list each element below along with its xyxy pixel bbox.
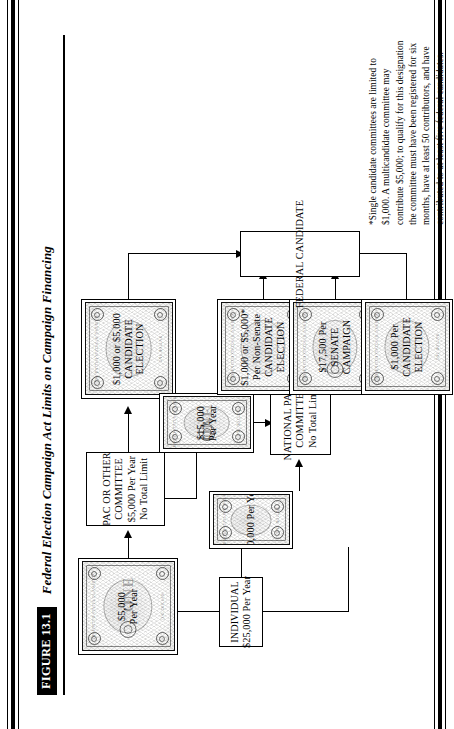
bill-microtext-bottom: ONE DOLLAR <box>237 409 241 435</box>
bill-microtext-top: THE UNITED STATES OF AMERICA <box>223 494 227 545</box>
bill-line-2: CANDIDATE <box>123 313 135 385</box>
figure-footnote: *Single candidate committees are limited… <box>367 40 447 225</box>
arrow-5000-to-pac <box>124 530 132 538</box>
bill-label: $5,000 Per Year <box>116 588 140 624</box>
bill-line-1: $1,000 or $5,000 <box>111 313 123 385</box>
bill-face: THE UNITED STATES OF AMERICA ONE DOLLAR … <box>213 494 290 545</box>
rosette-icon <box>431 372 444 385</box>
pac-line-4: No Total Limit <box>138 457 150 519</box>
page-rule-left-thick <box>11 0 15 729</box>
federal-candidate-label: FEDERAL CANDIDATE <box>294 199 306 307</box>
bill-microtext-top: THE UNITED STATES OF AMERICA <box>375 313 379 380</box>
bill-pac-candidate-election: THE UNITED STATES OF AMERICA ONE DOLLAR … <box>81 299 176 399</box>
node-pac-or-other-committee: PAC OR OTHER COMMITTEE $5,000 Per Year N… <box>86 452 165 526</box>
rosette-icon <box>154 376 167 389</box>
rosette-icon <box>156 632 169 645</box>
connector-senate-to-federal-line <box>335 277 336 299</box>
pac-line-2: COMMITTEE <box>113 458 125 519</box>
bill-line-4: ELECTION <box>275 308 287 385</box>
connector-pac-to-15000-vert <box>164 498 196 499</box>
bill-face: THE UNITED STATES OF AMERICA ONE DOLLAR … <box>82 561 175 651</box>
node-individual: INDIVIDUAL $25,000 Per Year <box>219 577 263 647</box>
rosette-icon <box>431 308 444 321</box>
figure-canvas: FIGURE 13.1 Federal Election Campaign Ac… <box>31 35 423 695</box>
page-rule-left-inner <box>18 0 19 729</box>
bill-individual-to-pac: THE UNITED STATES OF AMERICA ONE DOLLAR … <box>78 558 178 655</box>
bill-line-1: $1,000 or $5,000* <box>239 308 251 385</box>
bill-microtext-top: THE UNITED STATES OF AMERICA <box>231 313 235 380</box>
figure-page: FIGURE 13.1 Federal Election Campaign Ac… <box>0 0 454 729</box>
rosette-icon <box>156 567 169 580</box>
bill-microtext-bottom: ONE DOLLAR <box>159 335 163 361</box>
connector-individual-down-vert <box>263 611 348 612</box>
individual-line-1: INDIVIDUAL <box>229 581 241 643</box>
bill-line-2: Per Year <box>128 588 140 624</box>
bill-line-3: CANDIDATE <box>263 308 275 385</box>
connector-candidate-elbow-vert <box>128 253 238 254</box>
connector-individual-down-horz <box>348 547 349 612</box>
connector-individual-to-5000-vert <box>171 611 219 612</box>
bill-label: $1,000 or $5,000* Per Non-Senate CANDIDA… <box>239 308 286 385</box>
bill-line-2: Per Year <box>207 405 219 441</box>
figure-number: FIGURE 13.1 <box>37 607 57 695</box>
bill-label: $1,000 Per CANDIDATE ELECTION <box>389 317 424 377</box>
bill-microtext-bottom: ONE DOLLAR <box>436 333 440 359</box>
bill-microtext-top: THE UNITED STATES OF AMERICA <box>173 396 177 449</box>
bill-microtext-top: THE UNITED STATES OF AMERICA <box>95 315 99 382</box>
bill-face: THE UNITED STATES OF AMERICA ONE DOLLAR … <box>163 396 251 449</box>
rosette-icon <box>154 308 167 321</box>
connector-nonsenate-to-federal-line <box>263 277 264 299</box>
bill-line-2: CANDIDATE <box>401 317 413 377</box>
connector-pac-to-candidate-line <box>128 412 129 452</box>
individual-line-2: $25,000 Per Year <box>241 576 253 648</box>
arrow-20000-to-party <box>295 459 303 467</box>
connector-pac-to-15000-horz <box>196 453 197 499</box>
connector-ind-candidate-horz <box>406 253 407 299</box>
bill-line-3: ELECTION <box>413 317 425 377</box>
bill-face: THE UNITED STATES OF AMERICA ONE DOLLAR … <box>85 302 173 395</box>
bill-line-3: ELECTION <box>134 313 146 385</box>
bill-label: $20,000 Per Year <box>245 494 257 545</box>
figure-header: FIGURE 13.1 Federal Election Campaign Ac… <box>37 35 61 695</box>
connector-5000-to-pac-line <box>128 536 129 558</box>
bill-line-1: $17,500 Per <box>317 319 329 374</box>
bill-line-2: SENATE <box>329 319 341 374</box>
pac-line-1: PAC OR OTHER <box>101 452 113 525</box>
node-federal-candidate: FEDERAL CANDIDATE <box>240 231 360 277</box>
bill-label: $1,000 or $5,000 CANDIDATE ELECTION <box>111 313 146 385</box>
bill-individual-candidate-election: THE UNITED STATES OF AMERICA ONE DOLLAR … <box>361 299 453 395</box>
bill-label: $17,500 Per SENATE CAMPAIGN <box>317 319 352 374</box>
bill-line-1: $20,000 Per Year <box>245 494 257 545</box>
bill-line-1: $15,000 <box>195 405 207 441</box>
arrow-pac-to-candidate <box>124 406 132 414</box>
bill-microtext-top: THE UNITED STATES OF AMERICA <box>92 572 96 639</box>
bill-line-1: $5,000 <box>116 588 128 624</box>
page-rule-left-outer <box>7 0 8 729</box>
connector-individual-to-20000 <box>241 549 242 577</box>
bill-line-3: CAMPAIGN <box>341 319 353 374</box>
bill-pac-to-party: THE UNITED STATES OF AMERICA ONE DOLLAR … <box>159 393 254 453</box>
bill-individual-to-party: THE UNITED STATES OF AMERICA ONE DOLLAR … <box>209 491 293 549</box>
bill-microtext-bottom: ONE DOLLAR <box>161 593 165 619</box>
connector-20000-to-party-line <box>299 465 300 491</box>
bill-line-2: Per Non-Senate <box>251 308 263 385</box>
figure-title: Federal Election Campaign Act Limits on … <box>39 246 55 594</box>
bill-microtext-bottom: ONE DOLLAR <box>276 506 280 532</box>
bill-line-1: $1,000 Per <box>389 317 401 377</box>
bill-microtext-top: THE UNITED STATES OF AMERICA <box>303 313 307 380</box>
bill-label: $15,000 Per Year <box>195 405 219 441</box>
connector-candidate-elbow-horz <box>128 253 129 299</box>
title-divider <box>63 35 65 695</box>
bill-face: THE UNITED STATES OF AMERICA ONE DOLLAR … <box>365 302 450 391</box>
pac-line-3: $5,000 Per Year <box>126 455 138 522</box>
